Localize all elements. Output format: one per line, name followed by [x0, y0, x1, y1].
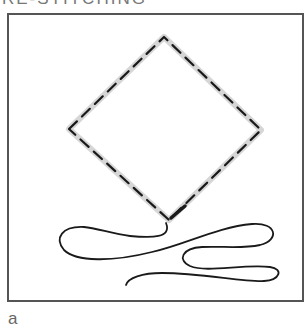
guide-outline — [69, 37, 261, 220]
loose-thread — [60, 223, 279, 285]
figure-caption: a — [8, 309, 17, 329]
running-stitch — [69, 37, 261, 220]
stitch-diagram — [2, 2, 307, 334]
figure-frame — [7, 13, 304, 302]
